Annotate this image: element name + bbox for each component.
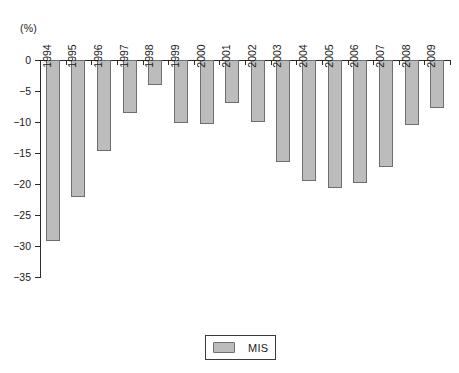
x-axis-category-label: 1994 xyxy=(41,44,53,67)
bar-chart-figure: (%) 0−5−10−15−20−25−30−35 19941995199619… xyxy=(0,0,459,373)
y-tick-mark xyxy=(35,184,40,185)
x-axis-category-label: 1998 xyxy=(143,44,155,67)
y-tick-mark xyxy=(35,91,40,92)
bar xyxy=(353,60,367,183)
x-axis-category-label: 2006 xyxy=(348,44,360,67)
y-tick-label: −25 xyxy=(13,209,31,221)
y-tick-mark xyxy=(35,246,40,247)
bar xyxy=(71,60,85,197)
x-axis-category-label: 2005 xyxy=(323,44,335,67)
legend-swatch-mis xyxy=(213,342,235,353)
chart-legend: MIS xyxy=(205,335,276,360)
bar xyxy=(97,60,111,151)
x-axis-category-label: 2002 xyxy=(246,44,258,67)
bar xyxy=(379,60,393,167)
y-axis-unit-label: (%) xyxy=(20,22,37,34)
x-axis-category-label: 2004 xyxy=(297,44,309,67)
bar xyxy=(302,60,316,181)
y-tick-mark xyxy=(35,153,40,154)
bar xyxy=(123,60,137,113)
x-axis-category-label: 1996 xyxy=(92,44,104,67)
bar xyxy=(276,60,290,162)
y-tick-label: −20 xyxy=(13,178,31,190)
x-axis-category-label: 2007 xyxy=(374,44,386,67)
y-tick-label: −5 xyxy=(19,85,31,97)
y-tick-mark xyxy=(35,122,40,123)
x-axis-category-label: 2000 xyxy=(195,44,207,67)
bar xyxy=(405,60,419,125)
x-axis-category-label: 1999 xyxy=(169,44,181,67)
bar xyxy=(200,60,214,124)
plot-area: 0−5−10−15−20−25−30−35 199419951996199719… xyxy=(40,60,450,277)
y-tick-label: −10 xyxy=(13,116,31,128)
y-tick-label: −30 xyxy=(13,240,31,252)
y-tick-mark xyxy=(35,277,40,278)
y-tick-label: −15 xyxy=(13,147,31,159)
legend-label-mis: MIS xyxy=(248,342,268,354)
x-tick-mark xyxy=(450,60,451,65)
bar xyxy=(328,60,342,188)
y-tick-label: −35 xyxy=(13,271,31,283)
x-axis-category-label: 2001 xyxy=(220,44,232,67)
bar xyxy=(174,60,188,123)
bar xyxy=(251,60,265,122)
y-tick-label: 0 xyxy=(25,54,31,66)
x-axis-category-label: 2003 xyxy=(271,44,283,67)
x-axis-category-label: 1995 xyxy=(66,44,78,67)
y-tick-mark xyxy=(35,215,40,216)
x-axis-category-label: 1997 xyxy=(118,44,130,67)
x-axis-category-label: 2009 xyxy=(425,44,437,67)
x-axis-category-label: 2008 xyxy=(400,44,412,67)
bar xyxy=(46,60,60,241)
